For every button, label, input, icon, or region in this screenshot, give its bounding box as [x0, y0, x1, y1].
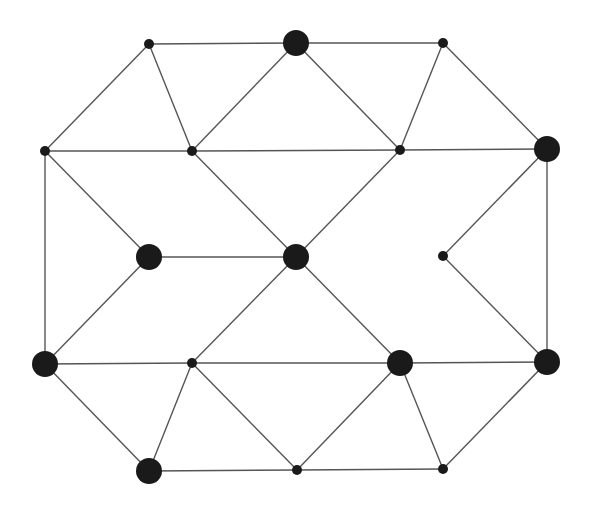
edge-K-L: [45, 363, 192, 364]
edge-K-O: [45, 364, 149, 471]
edge-C-G: [443, 43, 547, 149]
edge-B-F: [296, 43, 400, 150]
edge-L-P: [192, 363, 297, 470]
edge-M-Q: [400, 363, 443, 469]
edge-I-M: [296, 257, 400, 363]
edge-A-E: [149, 44, 192, 151]
edge-E-F: [192, 150, 400, 151]
node-P: [292, 465, 302, 475]
graph-diagram: [0, 0, 589, 509]
node-M: [387, 350, 413, 376]
edge-O-P: [149, 470, 297, 471]
node-B: [283, 30, 309, 56]
node-F: [395, 145, 405, 155]
node-I: [283, 244, 309, 270]
edge-N-Q: [443, 362, 547, 469]
node-J: [438, 251, 448, 261]
edge-B-E: [192, 43, 296, 151]
nodes-layer: [32, 30, 560, 484]
node-C: [438, 38, 448, 48]
node-G: [534, 136, 560, 162]
edge-J-N: [443, 256, 547, 362]
edge-G-J: [443, 149, 547, 256]
edge-A-D: [45, 44, 149, 151]
edge-A-B: [149, 43, 296, 44]
node-H: [136, 244, 162, 270]
node-O: [136, 458, 162, 484]
edge-P-Q: [297, 469, 443, 470]
node-Q: [438, 464, 448, 474]
node-N: [534, 349, 560, 375]
edge-C-F: [400, 43, 443, 150]
node-D: [40, 146, 50, 156]
edge-I-L: [192, 257, 296, 363]
node-E: [187, 146, 197, 156]
edge-I-F: [296, 150, 400, 257]
node-A: [144, 39, 154, 49]
edge-H-K: [45, 257, 149, 364]
node-L: [187, 358, 197, 368]
node-K: [32, 351, 58, 377]
edge-L-O: [149, 363, 192, 471]
edge-M-P: [297, 363, 400, 470]
edge-F-G: [400, 149, 547, 150]
edge-E-I: [192, 151, 296, 257]
edge-M-N: [400, 362, 547, 363]
edge-D-H: [45, 151, 149, 257]
